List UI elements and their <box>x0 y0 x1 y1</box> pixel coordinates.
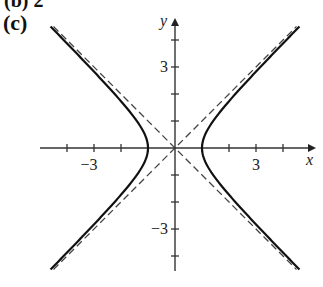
y-tick-label: 3 <box>160 58 168 75</box>
hyperbola-plot: −33−33 x y <box>0 0 323 287</box>
x-axis-label: x <box>305 151 313 168</box>
x-tick-label: 3 <box>252 156 260 173</box>
x-tick-label: −3 <box>80 156 97 173</box>
y-tick-label: −3 <box>151 220 168 237</box>
y-axis-label: y <box>158 12 168 30</box>
